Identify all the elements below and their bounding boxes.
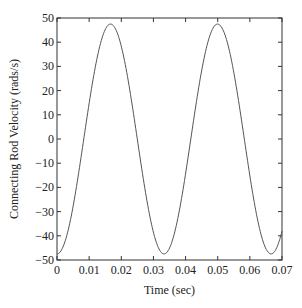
y-tick-label: 40 [42, 35, 54, 49]
line-chart: 00.010.020.030.040.050.060.07 −50−40−30−… [0, 0, 302, 308]
y-tick-label: −20 [35, 180, 54, 194]
y-axis-label: Connecting Rod Velocity (rads/s) [7, 59, 21, 219]
x-tick-label: 0 [54, 263, 60, 277]
x-tick-label: 0.07 [272, 263, 293, 277]
y-tick-label: 0 [48, 132, 54, 146]
x-tick-label: 0.02 [111, 263, 132, 277]
x-tick-label: 0.04 [175, 263, 196, 277]
y-tick-label: 50 [42, 11, 54, 25]
y-tick-label: 20 [42, 84, 54, 98]
y-tick-label: −50 [35, 253, 54, 267]
y-tick-label: −40 [35, 229, 54, 243]
y-tick-label: 30 [42, 59, 54, 73]
x-tick-label: 0.03 [143, 263, 164, 277]
plot-area: 00.010.020.030.040.050.060.07 −50−40−30−… [35, 11, 292, 277]
x-tick-label: 0.01 [79, 263, 100, 277]
x-axis-label: Time (sec) [144, 283, 195, 297]
y-tick-label: −10 [35, 156, 54, 170]
x-tick-label: 0.06 [239, 263, 260, 277]
axes-frame [57, 18, 282, 260]
y-tick-label: 10 [42, 108, 54, 122]
x-tick-label: 0.05 [207, 263, 228, 277]
y-tick-label: −30 [35, 205, 54, 219]
